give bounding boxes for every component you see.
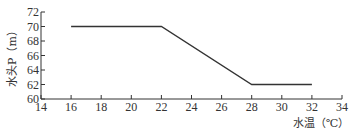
x-tick-label: 26 [216, 100, 228, 114]
y-tick-label: 62 [27, 78, 39, 92]
x-tick-label: 18 [95, 100, 107, 114]
plot-area [71, 27, 312, 85]
y-tick-label: 70 [27, 20, 39, 34]
x-tick-label: 24 [186, 100, 198, 114]
x-tick-label: 32 [306, 100, 318, 114]
line-chart: 141618202224262830323460626466687072 水温（… [0, 0, 360, 135]
x-tick-label: 16 [65, 100, 77, 114]
x-tick-label: 28 [246, 100, 258, 114]
y-tick-label: 66 [27, 49, 39, 63]
y-tick-label: 68 [27, 34, 39, 48]
x-axis-title: 水温（℃） [293, 117, 349, 130]
y-tick-label: 64 [27, 63, 39, 77]
series-line [71, 27, 312, 85]
x-tick-label: 30 [276, 100, 288, 114]
x-tick-label: 34 [336, 100, 348, 114]
x-tick-label: 20 [125, 100, 137, 114]
x-tick-label: 22 [155, 100, 167, 114]
y-tick-label: 72 [27, 5, 39, 19]
y-tick-label: 60 [27, 92, 39, 106]
y-axis-title: 水头P（m） [6, 25, 19, 87]
axes: 141618202224262830323460626466687072 [27, 5, 348, 114]
